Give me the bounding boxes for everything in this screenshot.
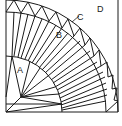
label-a: A xyxy=(17,65,23,75)
band-zigzag-inner xyxy=(6,0,14,12)
hub-lines xyxy=(6,56,62,112)
quilt-block-diagram: A B C D xyxy=(0,0,122,126)
label-d: D xyxy=(97,4,104,14)
caption xyxy=(0,116,122,126)
label-b: B xyxy=(56,30,62,40)
